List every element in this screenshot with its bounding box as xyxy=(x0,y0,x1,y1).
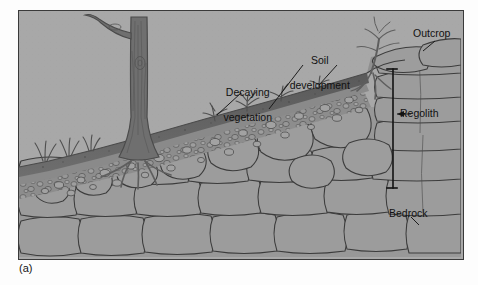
diagram-frame: Decaying vegetation Soil development Out… xyxy=(18,10,464,260)
figure-caption: (a) xyxy=(19,262,32,274)
label-decaying-vegetation: Decaying vegetation xyxy=(205,73,273,136)
label-soil-development: Soil development xyxy=(267,41,355,104)
label-decaying-vegetation-line2: vegetation xyxy=(224,111,272,123)
figure-container: Decaying vegetation Soil development Out… xyxy=(0,0,478,285)
label-bedrock: Bedrock xyxy=(389,207,428,220)
label-soil-development-line2: development xyxy=(290,79,350,91)
label-soil-development-line1: Soil xyxy=(311,54,329,66)
label-outcrop: Outcrop xyxy=(413,27,450,40)
label-regolith: Regolith xyxy=(400,107,439,120)
label-decaying-vegetation-line1: Decaying xyxy=(226,86,270,98)
